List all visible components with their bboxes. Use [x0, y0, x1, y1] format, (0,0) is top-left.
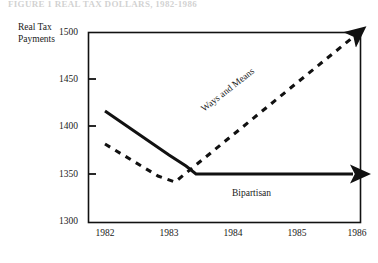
series-line-ways-and-means	[105, 38, 352, 182]
series-line-bipartisan	[105, 111, 353, 174]
plot-area: Ways and Means Bipartisan	[0, 0, 378, 263]
figure-chart: FIGURE 1 REAL TAX DOLLARS, 1982-1986 Rea…	[0, 0, 378, 263]
series-label-bipartisan: Bipartisan	[232, 188, 271, 198]
series-label-ways-and-means: Ways and Means	[199, 66, 256, 114]
